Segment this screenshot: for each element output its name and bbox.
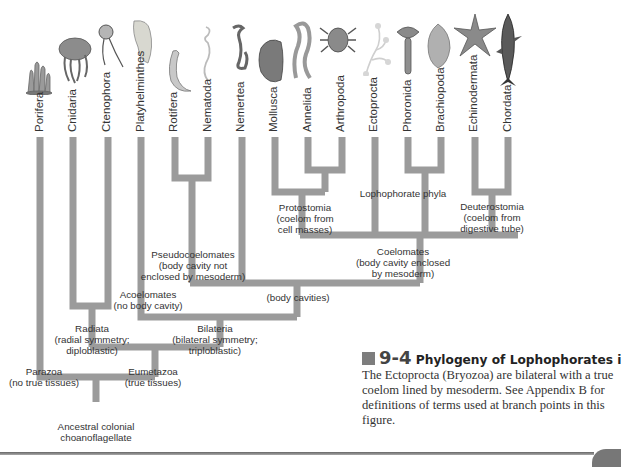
crab-icon [318,18,358,58]
node-title: Protostomia [276,202,333,213]
node-label-coelomates: Coelomates (body cavity enclosed by meso… [356,246,450,279]
page-corner-tab [592,449,621,467]
node-desc: digestive tube) [460,223,524,234]
taxon-label-nematoda: Nematoda [201,79,213,132]
node-title: Eumetazoa [125,366,182,377]
node-title: Radiata [54,323,129,334]
page-bottom-rule [0,452,594,455]
taxon-label-brachiopoda: Brachiopoda [434,67,446,132]
node-desc: (bilateral symmetry; [172,334,257,345]
node-desc: (body cavity enclosed [356,257,450,268]
node-label-radiata: Radiata (radial symmetry; diploblastic) [54,323,129,356]
comb-jelly-icon [97,23,127,73]
rotifer-icon [165,47,195,95]
node-label-acoelomates: Acoelomates (no body cavity) [113,289,182,311]
node-desc: triploblastic) [172,345,257,356]
caption-title-line: 9-4 Phylogeny of Lophophorates including… [362,350,617,368]
taxon-label-porifera: Porifera [33,92,45,132]
node-label-body-cavities: (body cavities) [266,292,329,303]
roundworm-icon [198,23,218,83]
node-label-protostomia: Protostomia (coelom from cell masses) [276,202,333,235]
figure-number: 9-4 [379,347,412,368]
caption-square-icon [362,352,375,365]
node-title: Acoelomates [113,289,182,300]
node-desc: choanoflagellate [58,432,135,443]
taxon-label-mollusca: Mollusca [267,87,279,132]
node-label-lophophorate: Lophophorate phyla [360,188,447,199]
node-label-root: Ancestral colonial choanoflagellate [58,421,135,443]
node-desc: (coelom from [460,212,524,223]
mussel-icon [255,36,289,86]
node-desc: (true tissues) [125,377,182,388]
node-desc: by mesoderm) [356,268,450,279]
node-desc: (no true tissues) [9,377,79,388]
phylogeny-figure: Porifera Cnidaria Ctenophora Platyhelmin… [0,0,621,467]
taxon-label-ctenophora: Ctenophora [100,72,112,132]
taxon-label-arthropoda: Arthropoda [334,75,346,132]
node-label-bilateria: Bilateria (bilateral symmetry; triplobla… [172,323,257,356]
taxon-label-cnidaria: Cnidaria [66,89,78,132]
taxon-label-rotifera: Rotifera [167,92,179,132]
node-desc: diploblastic) [54,345,129,356]
taxon-label-ectoprocta: Ectoprocta [367,77,379,132]
node-label-parazoa: Parazoa (no true tissues) [9,366,79,388]
taxon-label-annelida: Annelida [301,87,313,132]
node-title: Deuterostomia [460,201,524,212]
ribbon-worm-icon [229,22,253,72]
figure-caption: 9-4 Phylogeny of Lophophorates including… [362,350,617,428]
earthworm-icon [290,20,320,80]
node-desc: cell masses) [276,224,333,235]
node-desc: (body cavities) [266,292,329,303]
node-desc: (no body cavity) [113,300,182,311]
node-label-eumetazoa: Eumetazoa (true tissues) [125,366,182,388]
node-title: Coelomates [356,246,450,257]
figure-title: Phylogeny of Lophophorates including Ect… [416,353,621,367]
caption-body: The Ectoprocta (Bryozoa) are bilateral w… [362,368,617,428]
node-desc: (radial symmetry; [54,334,129,345]
node-title: Parazoa [9,366,79,377]
taxon-label-echinodermata: Echinodermata [467,55,479,132]
phoronid-icon [393,22,423,78]
taxon-label-chordata: Chordata [501,85,513,132]
node-title: Bilateria [172,323,257,334]
lamp-shell-icon [424,22,454,70]
node-desc: (body cavity not [141,260,246,271]
taxon-label-nemertea: Nemertea [234,82,246,133]
sponge-icon [24,55,54,95]
node-title: Lophophorate phyla [360,188,447,199]
bryozoan-icon [358,20,392,76]
taxon-label-platyhelminthes: Platyhelminthes [134,51,146,132]
node-title: Ancestral colonial [58,421,135,432]
jellyfish-icon [55,35,95,85]
node-label-pseudocoelomates: Pseudocoelomates (body cavity not enclos… [141,249,246,282]
taxon-label-phoronida: Phoronida [401,80,413,132]
node-label-deuterostomia: Deuterostomia (coelom from digestive tub… [460,201,524,234]
shark-icon [492,12,526,88]
node-title: Pseudocoelomates [141,249,246,260]
node-desc: enclosed by mesoderm) [141,271,246,282]
node-desc: (coelom from [276,213,333,224]
